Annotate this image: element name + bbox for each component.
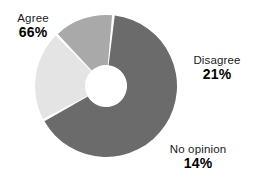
slice-label-disagree-value: 21% [182, 67, 252, 82]
slice-label-agree-name: Agree [2, 12, 64, 24]
slice-label-agree: Agree 66% [2, 12, 64, 41]
slice-label-no-opinion: No opinion 14% [146, 143, 250, 172]
slice-label-disagree-name: Disagree [182, 54, 252, 66]
donut-chart: Agree 66% Disagree 21% No opinion 14% [0, 0, 253, 184]
slice-label-agree-value: 66% [2, 25, 64, 40]
slice-label-disagree: Disagree 21% [182, 54, 252, 83]
slice-label-no-opinion-name: No opinion [146, 143, 250, 155]
slice-label-no-opinion-value: 14% [146, 156, 250, 171]
